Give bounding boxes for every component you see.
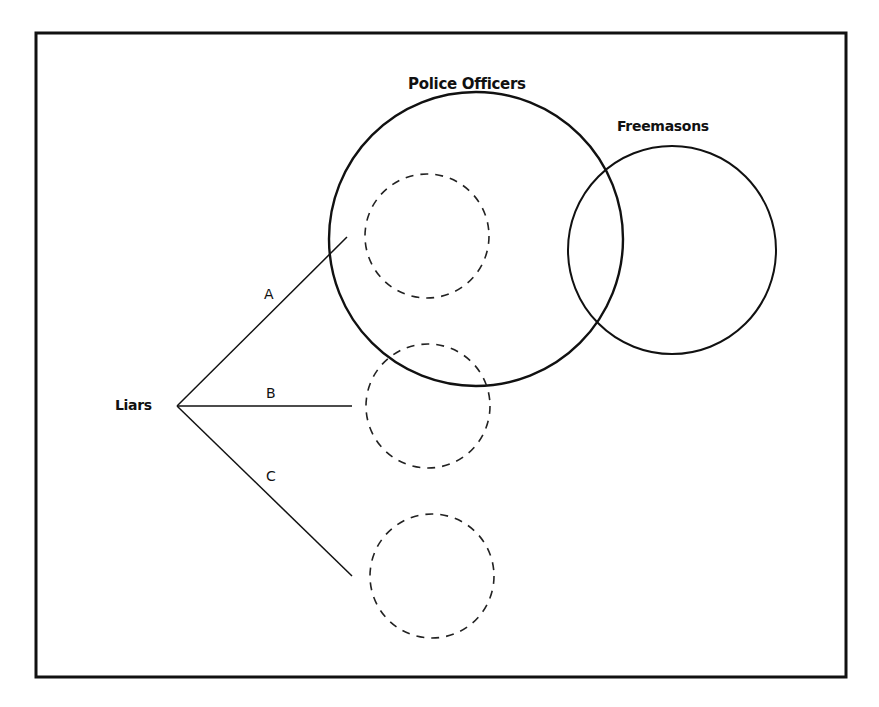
branch-label-b: B	[266, 386, 276, 400]
diagram-frame	[36, 33, 846, 677]
freemasons-label: Freemasons	[617, 119, 709, 133]
police-officers-label: Police Officers	[408, 77, 526, 92]
branch-label-a: A	[264, 287, 274, 301]
liars-circle-b	[366, 344, 490, 468]
liars-circle-a	[365, 174, 489, 298]
branch-label-c: C	[266, 469, 276, 483]
branch-line-a	[177, 237, 347, 406]
police-officers-circle	[329, 92, 623, 386]
liars-label: Liars	[115, 398, 152, 412]
liars-circle-c	[370, 514, 494, 638]
venn-diagram	[0, 0, 879, 707]
freemasons-circle	[568, 146, 776, 354]
branch-line-c	[177, 406, 352, 576]
